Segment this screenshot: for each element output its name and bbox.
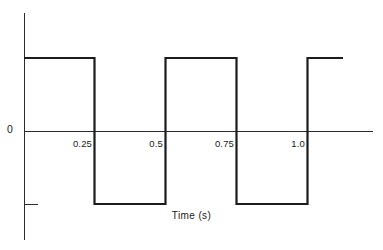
y-axis-origin-label: 0 [7, 123, 13, 135]
x-tick-label-0-5: 0.5 [128, 138, 163, 149]
square-wave-figure: 0 0.25 0.5 0.75 1.0 Time (s) [0, 0, 383, 250]
x-axis-title: Time (s) [0, 210, 383, 221]
x-tick-label-0-75: 0.75 [196, 138, 234, 149]
x-tick-label-1-0: 1.0 [270, 138, 305, 149]
x-tick-label-0-25: 0.25 [54, 138, 92, 149]
